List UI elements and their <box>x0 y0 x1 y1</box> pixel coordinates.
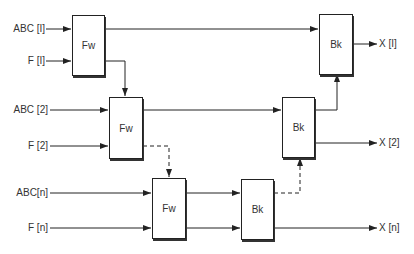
output-x-2: X [2] <box>379 137 400 149</box>
input-abc-2: ABC [2] <box>0 104 48 116</box>
input-abc-1: ABC [I] <box>0 23 45 35</box>
output-x-1: X [I] <box>379 38 397 50</box>
backward-block-2: Bk <box>282 97 315 158</box>
forward-block-1: Fw <box>72 15 105 76</box>
output-x-n: X [n] <box>379 222 400 234</box>
forward-block-n: Fw <box>152 178 186 239</box>
forward-block-2: Fw <box>109 97 143 159</box>
input-abc-n: ABC[n] <box>0 187 48 199</box>
input-f-2: F [2] <box>0 140 48 152</box>
input-f-1: F [I] <box>0 55 45 67</box>
input-f-n: F [n] <box>0 222 48 234</box>
backward-block-n: Bk <box>241 179 274 240</box>
backward-block-1: Bk <box>319 14 353 75</box>
